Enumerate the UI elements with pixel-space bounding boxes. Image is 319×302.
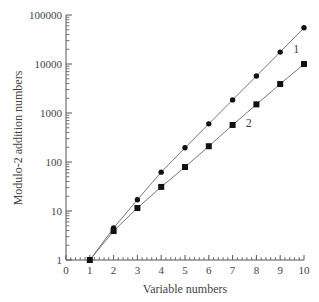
square-marker — [206, 143, 212, 149]
square-marker — [230, 122, 236, 128]
y-tick-label: 1000 — [40, 107, 63, 119]
circle-marker — [182, 145, 187, 150]
circle-marker — [278, 49, 283, 54]
square-marker — [87, 257, 93, 263]
circle-marker — [159, 169, 164, 174]
square-marker — [158, 184, 164, 190]
circle-marker — [135, 197, 140, 202]
circle-marker — [301, 25, 306, 30]
series-1 — [87, 25, 307, 263]
series-line — [90, 28, 304, 260]
circle-marker — [230, 97, 235, 102]
series-label-2: 2 — [246, 116, 252, 130]
x-tick-label: 2 — [111, 264, 117, 276]
axes — [66, 15, 304, 260]
chart: 110100100010000100000012345678910 12 Var… — [0, 0, 319, 302]
x-tick-label: 1 — [87, 264, 93, 276]
series-label-1: 1 — [293, 42, 299, 56]
series-2 — [87, 61, 307, 263]
x-tick-label: 10 — [299, 264, 311, 276]
x-tick-label: 3 — [135, 264, 141, 276]
square-marker — [111, 228, 117, 234]
x-tick-label: 0 — [63, 264, 69, 276]
x-tick-label: 8 — [254, 264, 260, 276]
circle-marker — [206, 121, 211, 126]
y-tick-label: 100 — [46, 156, 63, 168]
y-tick-label: 10 — [51, 205, 63, 217]
series-line — [90, 64, 304, 260]
tick-labels: 110100100010000100000012345678910 — [29, 9, 310, 276]
series: 12 — [87, 25, 307, 263]
circle-marker — [254, 73, 259, 78]
x-tick-label: 7 — [230, 264, 236, 276]
square-marker — [134, 205, 140, 211]
ticks — [66, 15, 304, 260]
square-marker — [182, 164, 188, 170]
x-tick-label: 5 — [182, 264, 188, 276]
y-tick-label: 10000 — [35, 58, 63, 70]
square-marker — [301, 61, 307, 67]
x-tick-label: 6 — [206, 264, 212, 276]
x-tick-label: 4 — [158, 264, 164, 276]
square-marker — [277, 81, 283, 87]
x-axis-title: Variable numbers — [143, 282, 228, 296]
square-marker — [253, 101, 259, 107]
y-tick-label: 1 — [57, 254, 63, 266]
x-tick-label: 9 — [277, 264, 283, 276]
y-axis-title: Modulo-2 addition numbers — [11, 70, 25, 205]
y-tick-label: 100000 — [29, 9, 63, 21]
